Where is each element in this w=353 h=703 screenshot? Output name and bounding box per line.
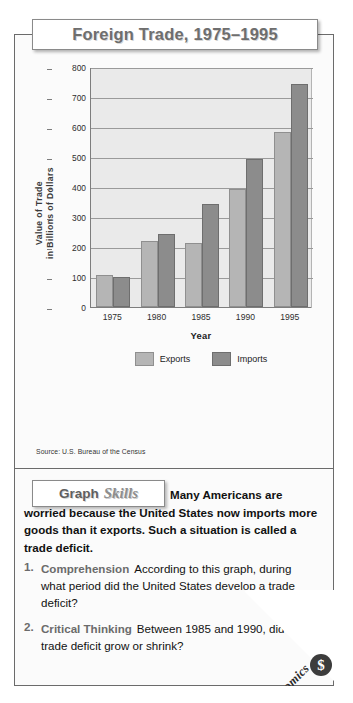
graph-skills-word-graph: Graph — [59, 486, 99, 501]
y-tick-label: 600 — [52, 123, 86, 133]
chart-legend: ExportsImports — [90, 352, 312, 366]
section-divider — [14, 468, 334, 469]
bar-imports-1985 — [202, 204, 219, 308]
bar-group — [135, 67, 179, 307]
bar-exports-1995 — [274, 132, 291, 307]
bar-group — [224, 67, 268, 307]
question-number: 2. — [24, 620, 41, 654]
y-tick-label: 700 — [52, 93, 86, 103]
page-title: Foreign Trade, 1975–1995 — [72, 25, 278, 44]
y-tick-mark — [47, 309, 52, 310]
y-tick-label: 300 — [52, 213, 86, 223]
legend-label: Exports — [160, 354, 191, 364]
y-tick-label: 100 — [52, 273, 86, 283]
legend-label: Imports — [237, 354, 267, 364]
legend-item-imports: Imports — [212, 352, 267, 366]
y-tick-mark — [47, 249, 52, 250]
plot-area — [90, 68, 312, 308]
question-body: ComprehensionAccording to this graph, du… — [41, 560, 314, 611]
legend-item-exports: Exports — [135, 352, 191, 366]
y-tick-label: 500 — [52, 153, 86, 163]
y-tick-mark — [47, 159, 52, 160]
graph-skills-word-skills: Skills — [104, 485, 138, 502]
bar-group — [180, 67, 224, 307]
y-tick-mark — [47, 279, 52, 280]
bar-exports-1990 — [229, 189, 246, 307]
y-axis-label-line1: Value of Trade — [34, 138, 45, 288]
question-number: 1. — [24, 560, 41, 611]
y-tick-mark — [47, 189, 52, 190]
bar-chart: Value of Trade in Billions of Dollars 01… — [14, 50, 334, 468]
worksheet-page: Foreign Trade, 1975–1995 Value of Trade … — [0, 0, 353, 703]
chart-title-banner: Foreign Trade, 1975–1995 — [32, 19, 318, 50]
question-item: 1.ComprehensionAccording to this graph, … — [24, 560, 314, 611]
x-axis-ticks: 19751980198519901995 — [90, 312, 312, 322]
y-tick-label: 0 — [52, 303, 86, 313]
question-item: 2.Critical ThinkingBetween 1985 and 1990… — [24, 620, 314, 654]
bar-imports-1990 — [246, 159, 263, 308]
y-tick-label: 400 — [52, 183, 86, 193]
legend-swatch — [135, 352, 154, 366]
x-tick-label: 1975 — [90, 312, 134, 322]
x-tick-label: 1995 — [268, 312, 312, 322]
x-tick-label: 1990 — [223, 312, 267, 322]
bar-exports-1980 — [141, 241, 158, 307]
bar-group — [91, 67, 135, 307]
bar-exports-1985 — [185, 243, 202, 307]
bar-group — [269, 67, 313, 307]
y-tick-label: 200 — [52, 243, 86, 253]
bar-imports-1980 — [158, 234, 175, 308]
x-tick-label: 1980 — [134, 312, 178, 322]
question-term: Critical Thinking — [41, 622, 132, 635]
y-tick-label: 800 — [52, 63, 86, 73]
y-tick-mark — [47, 129, 52, 130]
legend-swatch — [212, 352, 231, 366]
x-axis-label: Year — [90, 330, 312, 341]
y-tick-mark — [47, 99, 52, 100]
y-tick-mark — [47, 69, 52, 70]
bar-imports-1975 — [113, 277, 130, 307]
bar-exports-1975 — [96, 275, 113, 307]
question-body: Critical ThinkingBetween 1985 and 1990, … — [41, 620, 314, 654]
graph-skills-banner: Graph Skills — [32, 480, 165, 507]
question-term: Comprehension — [41, 562, 129, 575]
plot-area-wrapper: 0100200300400500600700800 — [90, 68, 312, 326]
source-note: Source: U.S. Bureau of the Census — [36, 448, 145, 455]
question-list: 1.ComprehensionAccording to this graph, … — [24, 560, 314, 663]
x-tick-label: 1985 — [179, 312, 223, 322]
bar-groups — [91, 67, 313, 307]
bar-imports-1995 — [291, 84, 308, 307]
y-tick-mark — [47, 219, 52, 220]
